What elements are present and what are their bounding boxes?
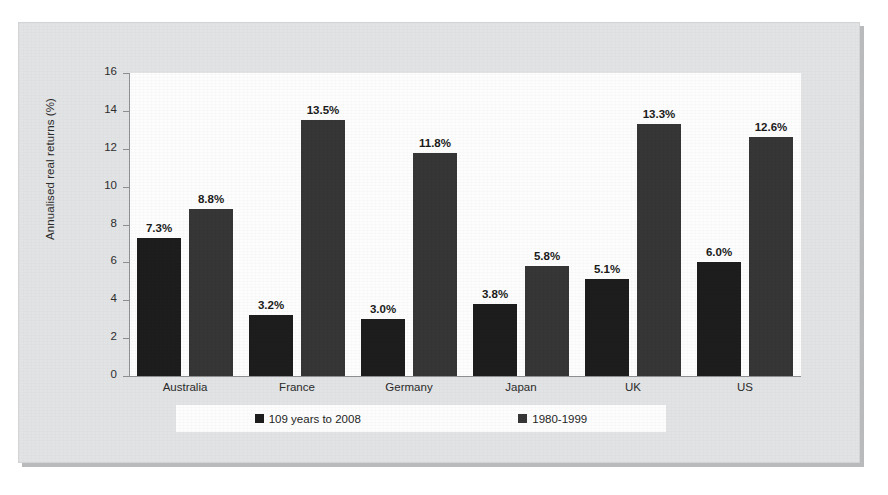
legend-color-swatch	[255, 414, 264, 423]
y-axis-tick-label: 4	[111, 292, 117, 304]
y-axis-title: Annualised real returns (%)	[44, 74, 56, 264]
y-axis-tick-label: 14	[104, 103, 117, 115]
y-axis-tick-label: 12	[104, 141, 117, 153]
legend-entry[interactable]: 109 years to 2008	[255, 413, 361, 425]
bar[interactable]	[413, 153, 457, 376]
bar-value-label: 12.6%	[755, 121, 788, 133]
bar-group: 5.1%13.3%	[577, 73, 689, 376]
bar-group: 3.0%11.8%	[353, 73, 465, 376]
bar-value-label: 7.3%	[146, 222, 172, 234]
bar-value-label: 3.2%	[258, 299, 284, 311]
x-axis-category-label: Australia	[163, 381, 208, 393]
bar[interactable]	[473, 304, 517, 376]
bar[interactable]	[301, 120, 345, 376]
x-axis-line	[123, 376, 801, 377]
bar-group: 3.8%5.8%	[465, 73, 577, 376]
bar[interactable]	[361, 319, 405, 376]
legend-color-swatch	[518, 414, 527, 423]
bar[interactable]	[749, 137, 793, 376]
x-axis-category-label: UK	[625, 381, 641, 393]
y-axis-tick-label: 10	[104, 179, 117, 191]
bar-group: 6.0%12.6%	[689, 73, 801, 376]
y-axis-tick-label: 2	[111, 330, 117, 342]
legend-label: 1980-1999	[532, 413, 587, 425]
bar-value-label: 6.0%	[706, 246, 732, 258]
y-axis-tick-label: 0	[111, 368, 117, 380]
bar-group: 3.2%13.5%	[241, 73, 353, 376]
bar-value-label: 3.8%	[482, 288, 508, 300]
x-axis-category-label: Japan	[505, 381, 536, 393]
bar-value-label: 3.0%	[370, 303, 396, 315]
bar[interactable]	[137, 238, 181, 376]
legend-entry[interactable]: 1980-1999	[518, 413, 587, 425]
bar-value-label: 5.8%	[534, 250, 560, 262]
x-axis-category-label: France	[279, 381, 315, 393]
y-axis-tick-mark	[123, 376, 129, 377]
bar-value-label: 13.5%	[307, 104, 340, 116]
bar[interactable]	[249, 315, 293, 376]
bar-value-label: 8.8%	[198, 193, 224, 205]
legend-label: 109 years to 2008	[269, 413, 361, 425]
bar[interactable]	[637, 124, 681, 376]
bar[interactable]	[189, 209, 233, 376]
x-axis-category-label: Germany	[385, 381, 432, 393]
bar-value-label: 5.1%	[594, 263, 620, 275]
y-axis-tick-label: 16	[104, 65, 117, 77]
bar[interactable]	[585, 279, 629, 376]
x-axis-category-label: US	[737, 381, 753, 393]
bar-chart: Annualised real returns (%) 024681012141…	[19, 23, 861, 464]
chart-legend: 109 years to 20081980-1999	[176, 405, 666, 432]
x-axis-categories: AustraliaFranceGermanyJapanUKUS	[129, 381, 801, 405]
bar-value-label: 13.3%	[643, 108, 676, 120]
y-axis-tick-label: 8	[111, 217, 117, 229]
bar-group: 7.3%8.8%	[129, 73, 241, 376]
bar[interactable]	[697, 262, 741, 376]
bar[interactable]	[525, 266, 569, 376]
y-axis-tick-label: 6	[111, 254, 117, 266]
bar-value-label: 11.8%	[419, 137, 451, 149]
figure-frame: Annualised real returns (%) 024681012141…	[18, 22, 860, 463]
bars-layer: 7.3%8.8%3.2%13.5%3.0%11.8%3.8%5.8%5.1%13…	[129, 73, 801, 376]
